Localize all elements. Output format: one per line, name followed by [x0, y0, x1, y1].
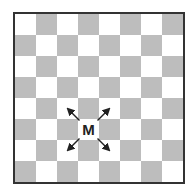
square-r4-c1: [36, 98, 57, 119]
square-r7-c2: [57, 161, 78, 182]
checkerboard: [13, 12, 185, 184]
square-r7-c1: [36, 161, 57, 182]
square-r5-c2: [57, 119, 78, 140]
square-r2-c5: [120, 56, 141, 77]
square-r7-c6: [141, 161, 162, 182]
square-r0-c6: [141, 14, 162, 35]
square-r2-c1: [36, 56, 57, 77]
square-r6-c5: [120, 140, 141, 161]
square-r7-c4: [99, 161, 120, 182]
square-r6-c4: [99, 140, 120, 161]
square-r2-c3: [78, 56, 99, 77]
square-r4-c5: [120, 98, 141, 119]
square-r7-c3: [78, 161, 99, 182]
square-r6-c6: [141, 140, 162, 161]
square-r6-c2: [57, 140, 78, 161]
square-r3-c5: [120, 77, 141, 98]
square-r3-c3: [78, 77, 99, 98]
square-r1-c0: [15, 35, 36, 56]
square-r1-c1: [36, 35, 57, 56]
square-r5-c7: [162, 119, 183, 140]
square-r3-c6: [141, 77, 162, 98]
square-r0-c3: [78, 14, 99, 35]
piece-m: M: [78, 119, 99, 140]
square-r5-c5: [120, 119, 141, 140]
square-r2-c6: [141, 56, 162, 77]
square-r3-c1: [36, 77, 57, 98]
square-r1-c3: [78, 35, 99, 56]
square-r1-c6: [141, 35, 162, 56]
square-r4-c0: [15, 98, 36, 119]
square-r5-c0: [15, 119, 36, 140]
square-r1-c2: [57, 35, 78, 56]
square-r3-c4: [99, 77, 120, 98]
square-r4-c3: [78, 98, 99, 119]
square-r6-c0: [15, 140, 36, 161]
square-r3-c7: [162, 77, 183, 98]
square-r1-c7: [162, 35, 183, 56]
square-r0-c1: [36, 14, 57, 35]
square-r7-c5: [120, 161, 141, 182]
square-r7-c7: [162, 161, 183, 182]
square-r0-c5: [120, 14, 141, 35]
square-r0-c4: [99, 14, 120, 35]
square-r6-c7: [162, 140, 183, 161]
square-r2-c0: [15, 56, 36, 77]
square-r0-c2: [57, 14, 78, 35]
square-r2-c2: [57, 56, 78, 77]
square-r6-c1: [36, 140, 57, 161]
square-r4-c6: [141, 98, 162, 119]
square-r5-c1: [36, 119, 57, 140]
square-r5-c4: [99, 119, 120, 140]
square-r0-c0: [15, 14, 36, 35]
square-r1-c5: [120, 35, 141, 56]
square-r1-c4: [99, 35, 120, 56]
square-r7-c0: [15, 161, 36, 182]
square-r2-c7: [162, 56, 183, 77]
square-r6-c3: [78, 140, 99, 161]
square-r2-c4: [99, 56, 120, 77]
square-r5-c6: [141, 119, 162, 140]
square-r3-c2: [57, 77, 78, 98]
square-r4-c7: [162, 98, 183, 119]
square-r4-c2: [57, 98, 78, 119]
square-r0-c7: [162, 14, 183, 35]
square-r4-c4: [99, 98, 120, 119]
square-r3-c0: [15, 77, 36, 98]
